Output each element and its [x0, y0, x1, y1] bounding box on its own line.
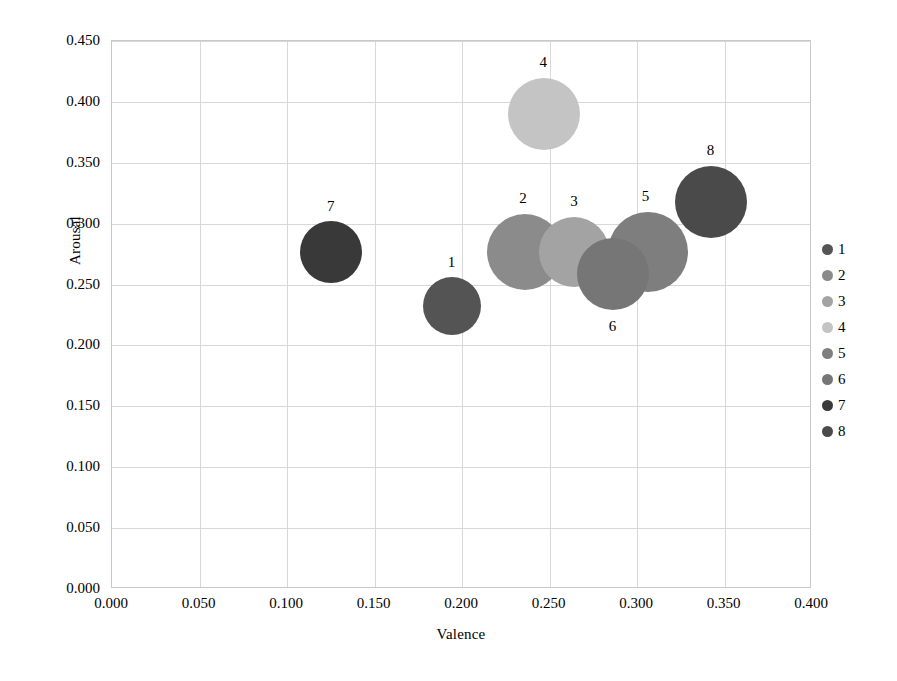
legend-item[interactable]: 3 — [822, 288, 884, 314]
legend-item-label: 7 — [838, 398, 846, 413]
y-tick-label: 0.300 — [8, 216, 108, 231]
legend-item-label: 2 — [838, 268, 846, 283]
plot-area: 12345678 — [111, 40, 811, 588]
legend-item[interactable]: 8 — [822, 418, 884, 444]
bubble-point-label: 8 — [691, 143, 731, 158]
x-tick-label: 0.200 — [416, 596, 506, 611]
legend-item[interactable]: 7 — [822, 392, 884, 418]
bubble-point[interactable] — [675, 166, 747, 238]
bubble-point[interactable] — [300, 221, 362, 283]
y-tick-label: 0.000 — [8, 581, 108, 596]
x-tick-label: 0.300 — [591, 596, 681, 611]
y-tick-label: 0.350 — [8, 155, 108, 170]
bubble-point-label: 2 — [503, 191, 543, 206]
bubble-series: 12345678 — [112, 41, 810, 587]
bubble-point-label: 4 — [523, 55, 563, 70]
y-tick-label: 0.100 — [8, 459, 108, 474]
legend-item[interactable]: 5 — [822, 340, 884, 366]
legend-swatch-icon — [822, 270, 833, 281]
bubble-point[interactable] — [577, 238, 649, 310]
legend-item-label: 5 — [838, 346, 846, 361]
legend-item-label: 6 — [838, 372, 846, 387]
bubble-point-label: 5 — [626, 189, 666, 204]
legend: 12345678 — [822, 236, 884, 444]
bubble-point[interactable] — [423, 277, 481, 335]
bubble-chart-figure: Arousal 0.0000.0500.1000.1500.2000.2500.… — [0, 0, 897, 681]
y-tick-label: 0.200 — [8, 337, 108, 352]
y-tick-label: 0.450 — [8, 33, 108, 48]
legend-swatch-icon — [822, 400, 833, 411]
bubble-point-label: 6 — [593, 319, 633, 334]
bubble-point-label: 7 — [311, 199, 351, 214]
legend-swatch-icon — [822, 348, 833, 359]
legend-item-label: 4 — [838, 320, 846, 335]
x-tick-label: 0.350 — [679, 596, 769, 611]
legend-swatch-icon — [822, 426, 833, 437]
legend-item[interactable]: 4 — [822, 314, 884, 340]
x-axis-title: Valence — [111, 626, 811, 643]
y-axis-tick-labels: 0.0000.0500.1000.1500.2000.2500.3000.350… — [0, 40, 108, 588]
x-tick-label: 0.100 — [241, 596, 331, 611]
legend-item-label: 3 — [838, 294, 846, 309]
bubble-point[interactable] — [508, 78, 580, 150]
bubble-point-label: 3 — [554, 194, 594, 209]
x-tick-label: 0.400 — [766, 596, 856, 611]
x-tick-label: 0.050 — [154, 596, 244, 611]
y-tick-label: 0.150 — [8, 398, 108, 413]
x-tick-label: 0.000 — [66, 596, 156, 611]
legend-item[interactable]: 1 — [822, 236, 884, 262]
y-tick-label: 0.400 — [8, 94, 108, 109]
legend-swatch-icon — [822, 322, 833, 333]
legend-item-label: 1 — [838, 242, 846, 257]
legend-item-label: 8 — [838, 424, 846, 439]
x-axis-tick-labels: 0.0000.0500.1000.1500.2000.2500.3000.350… — [111, 596, 811, 620]
y-tick-label: 0.050 — [8, 520, 108, 535]
x-tick-label: 0.250 — [504, 596, 594, 611]
x-tick-label: 0.150 — [329, 596, 419, 611]
legend-swatch-icon — [822, 244, 833, 255]
legend-item[interactable]: 2 — [822, 262, 884, 288]
legend-swatch-icon — [822, 296, 833, 307]
legend-swatch-icon — [822, 374, 833, 385]
legend-item[interactable]: 6 — [822, 366, 884, 392]
bubble-point-label: 1 — [432, 255, 472, 270]
y-tick-label: 0.250 — [8, 277, 108, 292]
